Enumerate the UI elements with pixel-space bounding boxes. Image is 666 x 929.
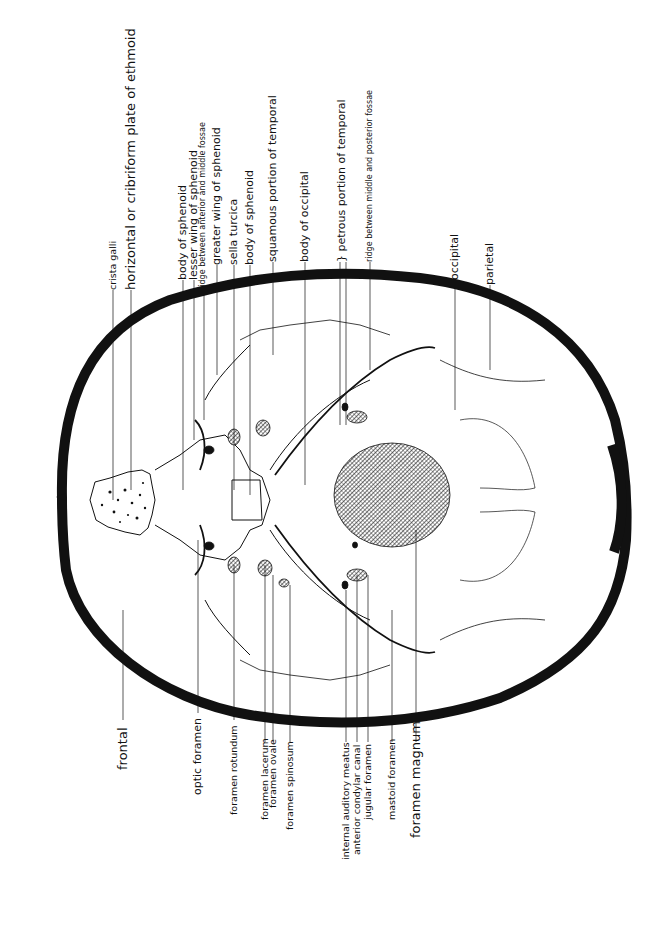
foramen-magnum-shape [334,443,450,547]
label-greater-wing-sphenoid: greater wing of sphenoid [211,127,222,265]
ethmoid-cribriform [90,470,155,535]
label-body-of-occipital: body of occipital [299,171,310,262]
label-ridge-anterior-middle: ridge between anterior and middle fossae [199,122,207,290]
label-foramen-magnum: foramen magnum [409,721,422,838]
label-parietal: parietal [484,243,495,285]
label-foramen-ovale: foramen ovale [268,739,278,808]
label-internal-auditory-meatus: internal auditory meatus [341,742,351,860]
foramina [204,403,450,589]
occipital-fossae [460,419,535,582]
label-squamous-temporal: squamous portion of temporal [267,95,278,262]
label-frontal: frontal [116,727,129,770]
label-ridge-middle-posterior: ridge between middle and posterior fossa… [366,90,374,262]
skull-base-diagram [0,0,666,929]
label-crista-galli: crista galli [108,241,118,290]
label-foramen-spinosum: foramen spinosum [285,741,295,830]
label-sella-turcica: sella turcica [228,199,239,265]
sphenoid-bone [155,345,270,655]
label-jugular-foramen: jugular foramen [363,744,373,820]
label-cribriform-plate: horizontal or cribriform plate of ethmoi… [124,28,137,290]
label-occipital: occipital [449,234,460,280]
label-anterior-condylar-canal: anterior condylar canal [352,745,362,855]
label-body-of-sphenoid-2: body of sphenoid [244,170,255,265]
label-foramen-rotundum: foramen rotundum [229,725,239,815]
label-mastoid-foramen: mastoid foramen [387,739,397,820]
label-optic-foramen: optic foramen [192,718,203,795]
label-petrous-temporal: } petrous portion of temporal [336,100,347,263]
